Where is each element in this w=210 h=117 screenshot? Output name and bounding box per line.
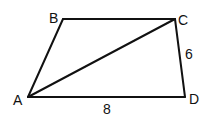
vertex-label-b: B — [49, 10, 58, 26]
vertex-label-a: A — [13, 92, 23, 108]
edge-cd — [175, 19, 185, 97]
vertex-label-d: D — [189, 91, 199, 107]
edge-ab — [28, 19, 63, 97]
quadrilateral-diagram: B C A D 6 8 — [0, 0, 210, 117]
vertex-label-c: C — [178, 12, 188, 28]
diagonal-ac — [28, 19, 175, 97]
measurement-cd: 6 — [185, 46, 193, 62]
measurement-ad: 8 — [103, 101, 111, 117]
